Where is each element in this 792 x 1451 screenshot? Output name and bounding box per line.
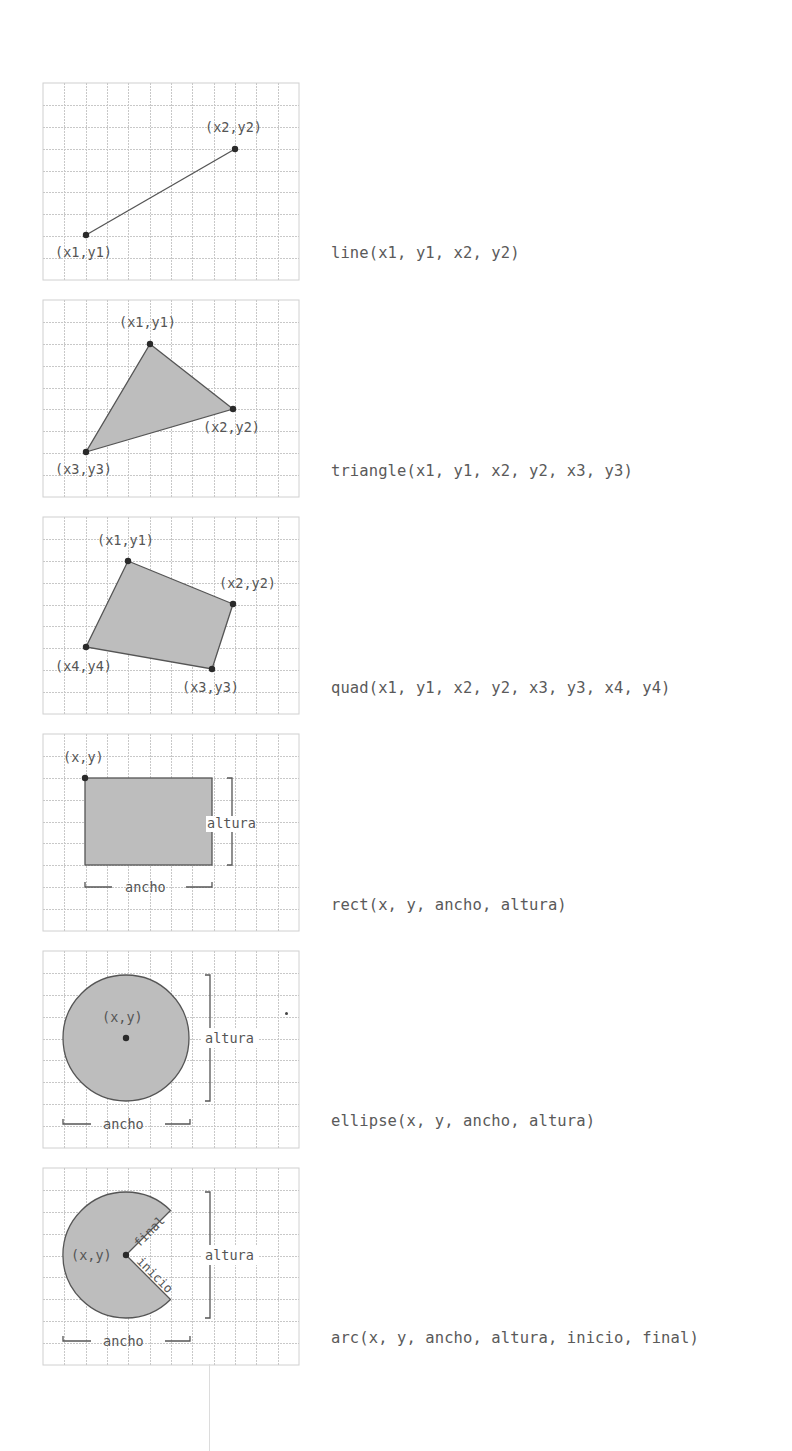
center-point xyxy=(123,1252,129,1258)
code-quad: quad(x1, y1, x2, y2, x3, y3, x4, y4) xyxy=(331,679,671,697)
point-2 xyxy=(230,601,236,607)
quad-diagram-panel: (x1,y1) (x2,y2) (x3,y3) (x4,y4) xyxy=(43,517,299,714)
origin-point xyxy=(82,775,88,781)
ellipse-diagram: (x,y) altura ancho xyxy=(43,951,299,1148)
label-p4: (x4,y4) xyxy=(55,658,112,674)
code-line: line(x1, y1, x2, y2) xyxy=(331,244,520,262)
point-1 xyxy=(83,232,89,238)
point-3 xyxy=(209,666,215,672)
point-1 xyxy=(125,558,131,564)
label-height: altura xyxy=(207,815,256,831)
rect-shape xyxy=(85,778,212,865)
rect-diagram-panel: (x,y) altura ancho xyxy=(43,734,299,931)
label-p2: (x2,y2) xyxy=(205,119,262,135)
arc-diagram-panel: (x,y) final inicio altura ancho xyxy=(43,1168,299,1365)
label-width: ancho xyxy=(125,879,166,895)
ellipse-diagram-panel: (x,y) altura ancho xyxy=(43,951,299,1148)
point-4 xyxy=(83,644,89,650)
guide-line xyxy=(209,1364,210,1451)
label-p1: (x1,y1) xyxy=(55,244,112,260)
code-triangle: triangle(x1, y1, x2, y2, x3, y3) xyxy=(331,462,633,480)
point-2 xyxy=(232,146,238,152)
point-2 xyxy=(230,406,236,412)
arc-diagram: (x,y) final inicio altura ancho xyxy=(43,1168,299,1365)
label-p3: (x3,y3) xyxy=(182,679,239,695)
line-diagram-panel: (x1,y1) (x2,y2) xyxy=(43,83,299,280)
label-center: (x,y) xyxy=(71,1247,112,1263)
quad-diagram: (x1,y1) (x2,y2) (x3,y3) (x4,y4) xyxy=(43,517,299,714)
label-width: ancho xyxy=(103,1116,144,1132)
code-rect: rect(x, y, ancho, altura) xyxy=(331,896,567,914)
point-1 xyxy=(147,341,153,347)
label-p2: (x2,y2) xyxy=(203,419,260,435)
stray-dot xyxy=(285,1012,288,1015)
code-arc: arc(x, y, ancho, altura, inicio, final) xyxy=(331,1329,699,1347)
point-3 xyxy=(83,449,89,455)
line-diagram: (x1,y1) (x2,y2) xyxy=(43,83,299,280)
center-point xyxy=(123,1035,129,1041)
label-height: altura xyxy=(205,1247,254,1263)
triangle-diagram-panel: (x1,y1) (x2,y2) (x3,y3) xyxy=(43,300,299,497)
label-center: (x,y) xyxy=(102,1009,143,1025)
label-p1: (x1,y1) xyxy=(119,314,176,330)
label-height: altura xyxy=(205,1030,254,1046)
label-origin: (x,y) xyxy=(63,749,104,765)
label-p1: (x1,y1) xyxy=(97,532,154,548)
code-ellipse: ellipse(x, y, ancho, altura) xyxy=(331,1112,595,1130)
label-width: ancho xyxy=(103,1333,144,1349)
label-p2: (x2,y2) xyxy=(219,575,276,591)
rect-diagram: (x,y) altura ancho xyxy=(43,734,299,931)
triangle-diagram: (x1,y1) (x2,y2) (x3,y3) xyxy=(43,300,299,497)
label-p3: (x3,y3) xyxy=(55,461,112,477)
